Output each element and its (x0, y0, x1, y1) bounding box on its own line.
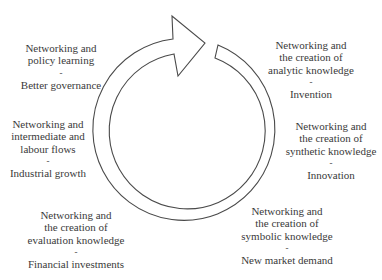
stage-evaluation-knowledge: Networking and the creation of evaluatio… (28, 209, 125, 271)
stage-outcome: Better governance (21, 79, 101, 91)
stage-title-line: Networking and (241, 205, 333, 217)
stage-title-line: the creation of (241, 217, 333, 229)
stage-separator: - (241, 242, 333, 254)
stage-outcome: Industrial growth (10, 167, 86, 179)
stage-separator: - (28, 246, 125, 258)
stage-title-line: Networking and (21, 42, 101, 54)
stage-title-line: evaluation knowledge (28, 234, 125, 246)
stage-title-line: Networking and (10, 118, 86, 130)
stage-separator: - (286, 157, 377, 169)
stage-title-line: the creation of (268, 51, 354, 63)
stage-separator: - (268, 76, 354, 88)
stage-title-line: symbolic knowledge (241, 230, 333, 242)
stage-title-line: the creation of (286, 132, 377, 144)
stage-outcome: Innovation (286, 169, 377, 181)
stage-title-line: Networking and (268, 39, 354, 51)
stage-analytic-knowledge: Networking and the creation of analytic … (268, 39, 354, 101)
stage-title-line: synthetic knowledge (286, 145, 377, 157)
stage-outcome: New market demand (241, 254, 333, 266)
stage-title-line: the creation of (28, 221, 125, 233)
stage-policy-learning: Networking and policy learning - Better … (21, 42, 101, 91)
stage-title-line: analytic knowledge (268, 64, 354, 76)
stage-title-line: labour flows (10, 143, 86, 155)
stage-title-line: intermediate and (10, 130, 86, 142)
stage-synthetic-knowledge: Networking and the creation of synthetic… (286, 120, 377, 182)
stage-labour-flows: Networking and intermediate and labour f… (10, 118, 86, 180)
stage-title-line: policy learning (21, 54, 101, 66)
circular-arrow-icon (93, 16, 275, 220)
stage-outcome: Invention (268, 88, 354, 100)
stage-title-line: Networking and (286, 120, 377, 132)
stage-title-line: Networking and (28, 209, 125, 221)
stage-separator: - (10, 155, 86, 167)
stage-symbolic-knowledge: Networking and the creation of symbolic … (241, 205, 333, 267)
stage-separator: - (21, 67, 101, 79)
stage-outcome: Financial investments (28, 258, 125, 270)
